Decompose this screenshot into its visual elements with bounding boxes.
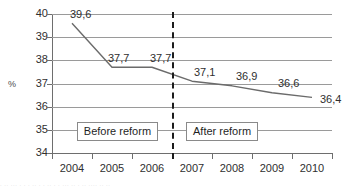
y-axis-unit-label: % xyxy=(8,79,16,89)
x-tickmark xyxy=(212,154,213,159)
annotation-after-reform: After reform xyxy=(186,122,258,141)
y-axis-tick-labels: 40393837363534 xyxy=(22,0,48,188)
y-tick-label: 37 xyxy=(26,78,48,89)
y-tick-label: 34 xyxy=(26,147,48,158)
annotation-before-reform: Before reform xyxy=(77,122,158,141)
cropped-caption-text: · ·· ··· · · · ·· · · ·· · · ··· ·· · ··… xyxy=(0,182,346,188)
y-tick-label: 39 xyxy=(26,31,48,42)
line-chart: % 40393837363534 39,637,737,737,136,936,… xyxy=(0,0,346,188)
data-point-label: 37,1 xyxy=(194,66,215,78)
y-tick-label: 40 xyxy=(26,8,48,19)
x-tick-label: 2005 xyxy=(92,162,132,174)
y-tick-label: 35 xyxy=(26,124,48,135)
data-point-label: 39,6 xyxy=(70,8,91,20)
x-tickmark xyxy=(292,154,293,159)
y-tick-label: 36 xyxy=(26,101,48,112)
y-tick-label: 38 xyxy=(26,54,48,65)
data-point-label: 37,7 xyxy=(108,52,129,64)
data-point-label: 36,6 xyxy=(278,77,299,89)
x-tickmark xyxy=(132,154,133,159)
data-point-label: 37,7 xyxy=(150,52,171,64)
x-tick-label: 2010 xyxy=(292,162,332,174)
x-tickmark xyxy=(252,154,253,159)
x-tick-label: 2004 xyxy=(52,162,92,174)
x-axis-line xyxy=(52,153,333,154)
x-tickmark xyxy=(332,154,333,159)
x-tickmark xyxy=(52,154,53,159)
x-tick-label: 2006 xyxy=(132,162,172,174)
data-point-label: 36,4 xyxy=(320,93,341,105)
x-tick-label: 2007 xyxy=(172,162,212,174)
x-tick-label: 2008 xyxy=(212,162,252,174)
reform-divider-line xyxy=(172,12,174,159)
data-point-label: 36,9 xyxy=(236,70,257,82)
x-tick-label: 2009 xyxy=(252,162,292,174)
x-tickmark xyxy=(92,154,93,159)
